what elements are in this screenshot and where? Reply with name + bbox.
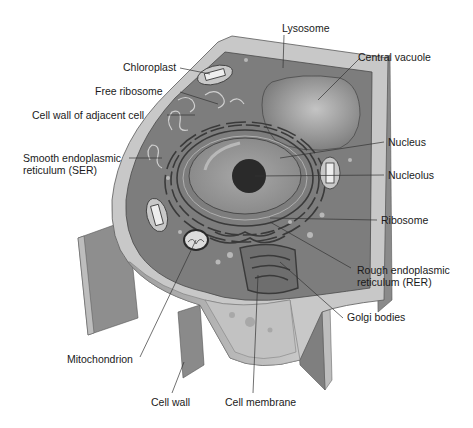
label-free-ribosome: Free ribosome <box>95 85 163 97</box>
label-central-vacuole: Central vacuole <box>358 51 431 63</box>
label-golgi: Golgi bodies <box>347 311 405 323</box>
label-ribosome: Ribosome <box>381 214 428 226</box>
label-lysosome: Lysosome <box>282 22 329 34</box>
golgi-bodies <box>240 244 298 293</box>
central-vacuole <box>262 76 360 150</box>
label-cell-wall-adjacent: Cell wall of adjacent cell <box>32 109 144 121</box>
label-ser: Smooth endoplasmic reticulum (SER) <box>23 152 121 176</box>
label-nucleolus: Nucleolus <box>388 169 434 181</box>
label-cell-membrane: Cell membrane <box>225 396 296 408</box>
plant-cell-diagram: Lysosome Central vacuole Chloroplast Fre… <box>0 0 473 428</box>
label-chloroplast: Chloroplast <box>123 61 176 73</box>
label-nucleus: Nucleus <box>388 136 426 148</box>
label-rer: Rough endoplasmic reticulum (RER) <box>357 264 450 288</box>
label-mitochondrion: Mitochondrion <box>67 353 133 365</box>
label-cell-wall: Cell wall <box>151 396 190 408</box>
